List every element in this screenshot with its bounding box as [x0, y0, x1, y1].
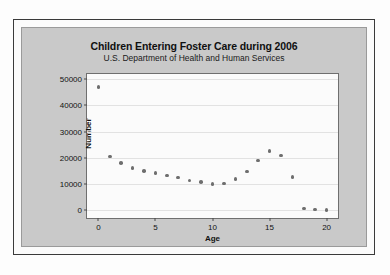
data-point	[176, 176, 180, 180]
gridline-y	[87, 210, 338, 211]
y-tick-mark	[84, 157, 87, 158]
y-tick-label: 10000	[60, 179, 82, 188]
x-tick-label: 10	[208, 223, 217, 232]
data-point	[302, 207, 306, 211]
chart-subtitle: U.S. Department of Health and Human Serv…	[22, 53, 366, 63]
data-point	[131, 166, 135, 170]
plot-layer	[87, 74, 338, 218]
data-point	[245, 170, 249, 174]
y-tick-label: 50000	[60, 75, 82, 84]
x-tick-mark	[98, 218, 99, 221]
data-point	[108, 155, 112, 159]
x-tick-label: 20	[322, 223, 331, 232]
y-tick-label: 20000	[60, 153, 82, 162]
data-point	[222, 182, 226, 186]
y-tick-mark	[84, 105, 87, 106]
y-tick-label: 0	[78, 206, 82, 215]
gridline-y	[87, 158, 338, 159]
gridline-y	[87, 132, 338, 133]
figure-root: Children Entering Foster Care during 200…	[0, 0, 390, 275]
x-tick-label: 5	[153, 223, 157, 232]
data-point	[211, 182, 215, 186]
y-tick-label: 40000	[60, 101, 82, 110]
data-point	[325, 208, 329, 212]
plot-area: Number Age 01000020000300004000050000051…	[86, 73, 339, 219]
data-point	[234, 177, 238, 181]
chart-title: Children Entering Foster Care during 200…	[22, 40, 366, 52]
data-point	[291, 175, 295, 179]
x-tick-mark	[212, 218, 213, 221]
x-tick-label: 0	[96, 223, 100, 232]
chart-outer-frame: Children Entering Foster Care during 200…	[13, 19, 375, 255]
x-axis-title: Age	[87, 234, 338, 243]
x-tick-mark	[326, 218, 327, 221]
y-tick-label: 30000	[60, 127, 82, 136]
data-point	[188, 179, 192, 183]
data-point	[154, 171, 158, 175]
data-point	[165, 174, 169, 178]
x-tick-mark	[269, 218, 270, 221]
gridline-y	[87, 105, 338, 106]
y-tick-mark	[84, 183, 87, 184]
chart-gray-panel: Children Entering Foster Care during 200…	[21, 27, 367, 247]
x-tick-label: 15	[265, 223, 274, 232]
data-point	[142, 169, 146, 173]
y-tick-mark	[84, 210, 87, 211]
data-point	[256, 159, 260, 163]
gridline-y	[87, 79, 338, 80]
x-tick-mark	[155, 218, 156, 221]
y-tick-mark	[84, 131, 87, 132]
data-point	[268, 149, 272, 153]
data-point	[97, 85, 101, 89]
data-point	[199, 180, 203, 184]
y-tick-mark	[84, 79, 87, 80]
data-point	[119, 161, 123, 165]
